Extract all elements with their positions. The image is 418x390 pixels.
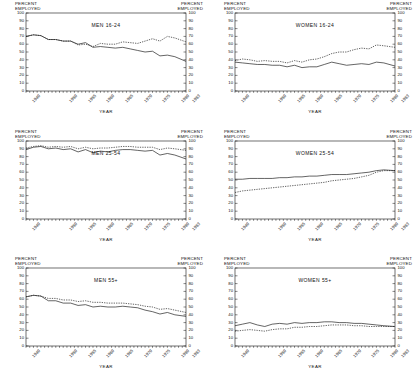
x-axis-label: YEAR xyxy=(308,364,322,369)
chart-panel: PERCENTEMPLOYEDPERCENTEMPLOYED0010102020… xyxy=(0,0,209,128)
chart-panel: PERCENTEMPLOYEDPERCENTEMPLOYED0010102020… xyxy=(0,128,209,255)
y-tick-label-right: 20 xyxy=(189,328,194,332)
y-tick-label-right: 0 xyxy=(189,217,191,221)
plot-area xyxy=(0,0,209,120)
y-tick-label-left: 0 xyxy=(8,344,24,348)
y-tick-label-right: 100 xyxy=(398,266,405,270)
y-tick-label-left: 100 xyxy=(8,139,24,143)
y-tick-label-left: 60 xyxy=(217,297,233,301)
y-tick-label-right: 70 xyxy=(189,289,194,293)
y-tick-label-right: 30 xyxy=(189,65,194,69)
y-tick-label-right: 0 xyxy=(189,344,191,348)
y-tick-label-right: 50 xyxy=(398,305,403,309)
y-tick-label-right: 60 xyxy=(398,170,403,174)
y-tick-label-right: 80 xyxy=(189,26,194,30)
y-tick-label-right: 10 xyxy=(398,81,403,85)
y-tick-label-right: 70 xyxy=(398,162,403,166)
y-tick-label-right: 100 xyxy=(189,266,196,270)
y-tick-label-left: 100 xyxy=(217,266,233,270)
y-tick-label-left: 80 xyxy=(217,154,233,158)
y-tick-label-left: 60 xyxy=(8,170,24,174)
y-tick-label-left: 60 xyxy=(8,297,24,301)
y-tick-label-right: 30 xyxy=(398,320,403,324)
y-tick-label-right: 100 xyxy=(398,11,405,15)
y-tick-label-left: 10 xyxy=(217,81,233,85)
y-tick-label-left: 90 xyxy=(8,274,24,278)
y-tick-label-left: 90 xyxy=(8,147,24,151)
y-tick-label-right: 80 xyxy=(398,154,403,158)
chart-panel: PERCENTEMPLOYEDPERCENTEMPLOYED0010102020… xyxy=(209,255,418,390)
y-tick-label-right: 40 xyxy=(398,58,403,62)
y-tick-label-left: 70 xyxy=(217,162,233,166)
y-tick-label-right: 90 xyxy=(398,19,403,23)
y-tick-label-left: 40 xyxy=(217,58,233,62)
y-tick-label-left: 0 xyxy=(217,344,233,348)
x-axis-label: YEAR xyxy=(99,109,113,114)
y-tick-label-left: 80 xyxy=(217,26,233,30)
series-line-dotted xyxy=(235,45,395,63)
y-tick-label-left: 50 xyxy=(217,305,233,309)
y-tick-label-left: 30 xyxy=(217,320,233,324)
y-tick-label-right: 90 xyxy=(189,274,194,278)
y-tick-label-left: 0 xyxy=(217,89,233,93)
y-tick-label-right: 80 xyxy=(189,154,194,158)
chart-panel: PERCENTEMPLOYEDPERCENTEMPLOYED0010102020… xyxy=(0,255,209,390)
y-tick-label-right: 0 xyxy=(398,217,400,221)
y-tick-label-left: 100 xyxy=(8,266,24,270)
y-tick-label-right: 0 xyxy=(398,89,400,93)
y-tick-label-right: 100 xyxy=(398,139,405,143)
series-line-solid xyxy=(235,62,395,67)
y-tick-label-left: 0 xyxy=(217,217,233,221)
y-tick-label-right: 80 xyxy=(398,26,403,30)
panel-title: MEN 16-24 xyxy=(92,22,121,28)
y-tick-label-left: 30 xyxy=(217,193,233,197)
y-tick-label-left: 100 xyxy=(8,11,24,15)
x-axis-label: YEAR xyxy=(99,364,113,369)
y-tick-label-left: 90 xyxy=(217,274,233,278)
y-tick-label-left: 100 xyxy=(217,139,233,143)
panel-title: MEN 55+ xyxy=(94,277,118,283)
y-tick-label-left: 90 xyxy=(8,19,24,23)
plot-area xyxy=(0,255,209,375)
y-tick-label-right: 70 xyxy=(398,289,403,293)
series-line-dotted xyxy=(26,295,186,312)
y-tick-label-left: 20 xyxy=(8,328,24,332)
y-tick-label-left: 0 xyxy=(8,217,24,221)
series-line-solid xyxy=(26,35,186,62)
y-tick-label-left: 80 xyxy=(8,281,24,285)
x-axis-label: YEAR xyxy=(99,237,113,242)
y-tick-label-left: 70 xyxy=(8,34,24,38)
y-tick-label-right: 80 xyxy=(398,281,403,285)
y-tick-label-right: 10 xyxy=(189,336,194,340)
y-tick-label-right: 40 xyxy=(398,313,403,317)
y-tick-label-left: 70 xyxy=(217,289,233,293)
y-tick-label-left: 40 xyxy=(217,313,233,317)
series-line-dotted xyxy=(235,325,395,331)
y-tick-label-left: 80 xyxy=(8,154,24,158)
y-tick-label-right: 40 xyxy=(189,313,194,317)
y-tick-label-left: 20 xyxy=(217,73,233,77)
plot-area xyxy=(0,128,209,248)
y-tick-label-left: 70 xyxy=(8,289,24,293)
y-tick-label-left: 20 xyxy=(217,201,233,205)
y-tick-label-left: 30 xyxy=(8,320,24,324)
y-tick-label-right: 90 xyxy=(398,274,403,278)
y-tick-label-left: 30 xyxy=(8,65,24,69)
y-tick-label-left: 70 xyxy=(8,162,24,166)
y-tick-label-right: 40 xyxy=(398,186,403,190)
y-tick-label-right: 40 xyxy=(189,58,194,62)
y-tick-label-left: 50 xyxy=(8,178,24,182)
y-tick-label-right: 30 xyxy=(189,320,194,324)
y-tick-label-left: 10 xyxy=(8,81,24,85)
y-tick-label-right: 100 xyxy=(189,11,196,15)
y-tick-label-left: 10 xyxy=(217,336,233,340)
y-tick-label-right: 20 xyxy=(398,328,403,332)
y-tick-label-right: 50 xyxy=(189,305,194,309)
y-tick-label-right: 30 xyxy=(398,193,403,197)
y-tick-label-left: 20 xyxy=(8,201,24,205)
y-tick-label-left: 50 xyxy=(217,178,233,182)
y-tick-label-right: 60 xyxy=(189,297,194,301)
y-tick-label-right: 0 xyxy=(189,89,191,93)
panel-title: WOMEN 25-54 xyxy=(296,150,334,156)
panel-title: MEN 25-54 xyxy=(92,150,121,156)
